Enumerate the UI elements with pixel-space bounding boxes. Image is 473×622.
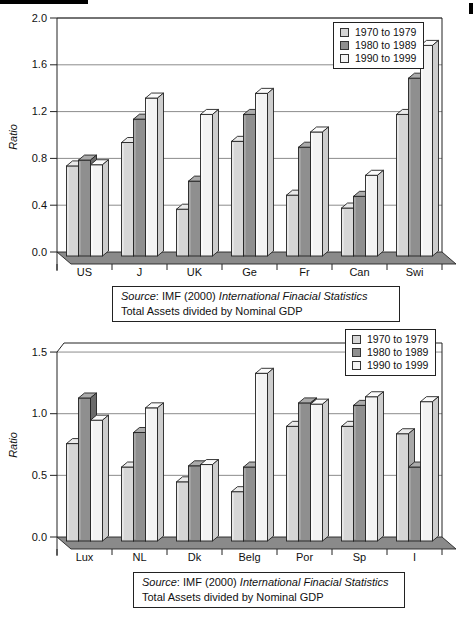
bar-1990to1999-Fr [311, 127, 329, 256]
bar-1990to1999-Por [311, 399, 329, 541]
source-caption-bottom: Source: IMF (2000) International Finacia… [133, 572, 405, 608]
bar-1990to1999-J [146, 93, 164, 256]
bar-side-face [268, 368, 274, 541]
bar-1990to1999-Sp [366, 392, 384, 541]
y-tick-label: 0.8 [20, 152, 47, 164]
bar-side-face [433, 397, 439, 541]
x-category-label: US [63, 266, 107, 278]
legend-swatch-1990s [340, 54, 349, 63]
y-tick-label: 0.0 [20, 246, 47, 258]
bar-side-face [433, 40, 439, 256]
legend-label: 1980 to 1989 [355, 39, 416, 52]
x-category-label: Dk [173, 551, 217, 563]
x-category-label: Por [283, 551, 327, 563]
y-tick-label: 1.6 [20, 58, 47, 70]
x-category-label: Can [338, 266, 382, 278]
x-category-label: Lux [63, 551, 107, 563]
bar-side-face [378, 170, 384, 256]
caption-source-rest: : IMF (2000) [156, 290, 219, 302]
figure-canvas: 0.00.40.81.21.62.0USJUKGeFrCanSwi0.00.51… [0, 0, 473, 622]
caption-source-title: International Finacial Statistics [240, 576, 389, 588]
legend-top-chart: 1970 to 1979 1980 to 1989 1990 to 1999 [333, 22, 424, 69]
y-tick-label: 0.0 [20, 531, 47, 543]
bar-1990to1999-Ge [256, 88, 274, 256]
caption-source-word: Source [121, 290, 156, 302]
legend-bottom-chart: 1970 to 1979 1980 to 1989 1990 to 1999 [345, 329, 436, 376]
legend-swatch-1980s [352, 348, 361, 357]
bar-side-face [213, 109, 219, 256]
y-tick-label: 2.0 [20, 12, 47, 24]
bar-side-face [158, 403, 164, 541]
legend-label: 1990 to 1999 [367, 359, 428, 372]
y-tick-label: 1.0 [20, 407, 47, 419]
bar-side-face [213, 460, 219, 541]
x-category-label: J [118, 266, 162, 278]
x-category-label: NL [118, 551, 162, 563]
caption-line-1: Source: IMF (2000) International Finacia… [142, 575, 396, 590]
bar-side-face [103, 160, 109, 256]
x-category-label: Swi [393, 266, 437, 278]
y-tick-label: 0.4 [20, 199, 47, 211]
x-category-label: UK [173, 266, 217, 278]
legend-item: 1970 to 1979 [352, 333, 428, 346]
bar-1990to1999-Belg [256, 368, 274, 541]
x-category-label: Belg [228, 551, 272, 563]
bar-side-face [158, 93, 164, 256]
legend-label: 1990 to 1999 [355, 52, 416, 65]
bar-1990to1999-UK [201, 109, 219, 256]
caption-source-title: International Finacial Statistics [219, 290, 368, 302]
source-caption-top: Source: IMF (2000) International Finacia… [112, 286, 400, 322]
caption-source-word: Source [142, 576, 177, 588]
legend-item: 1980 to 1989 [340, 39, 416, 52]
bar-side-face [103, 415, 109, 541]
bar-1990to1999-Can [366, 170, 384, 256]
bar-1990to1999-Lux [91, 415, 109, 541]
y-axis-title-bottom: Ratio [7, 425, 21, 465]
bar-side-face [323, 127, 329, 256]
legend-item: 1980 to 1989 [352, 346, 428, 359]
bar-1990to1999-US [91, 160, 109, 256]
y-tick-label: 0.5 [20, 469, 47, 481]
legend-label: 1970 to 1979 [355, 26, 416, 39]
bar-side-face [323, 399, 329, 541]
y-tick-label: 1.5 [20, 346, 47, 358]
caption-line-1: Source: IMF (2000) International Finacia… [121, 289, 391, 304]
bar-1990to1999-I [421, 397, 439, 541]
bar-1990to1999-NL [146, 403, 164, 541]
bar-side-face [268, 88, 274, 256]
y-tick-label: 1.2 [20, 105, 47, 117]
bar-1990to1999-Swi [421, 40, 439, 256]
legend-label: 1980 to 1989 [367, 346, 428, 359]
caption-line-2: Total Assets divided by Nominal GDP [142, 590, 396, 605]
x-category-label: Fr [283, 266, 327, 278]
bar-side-face [378, 392, 384, 541]
legend-label: 1970 to 1979 [367, 333, 428, 346]
x-category-label: I [393, 551, 437, 563]
x-category-label: Sp [338, 551, 382, 563]
legend-item: 1970 to 1979 [340, 26, 416, 39]
legend-swatch-1980s [340, 41, 349, 50]
bar-1990to1999-Dk [201, 460, 219, 541]
y-axis-title-top: Ratio [7, 117, 21, 157]
caption-source-rest: : IMF (2000) [177, 576, 240, 588]
caption-line-2: Total Assets divided by Nominal GDP [121, 304, 391, 319]
legend-swatch-1990s [352, 361, 361, 370]
legend-swatch-1970s [352, 335, 361, 344]
legend-swatch-1970s [340, 28, 349, 37]
legend-item: 1990 to 1999 [340, 52, 416, 65]
legend-item: 1990 to 1999 [352, 359, 428, 372]
x-category-label: Ge [228, 266, 272, 278]
